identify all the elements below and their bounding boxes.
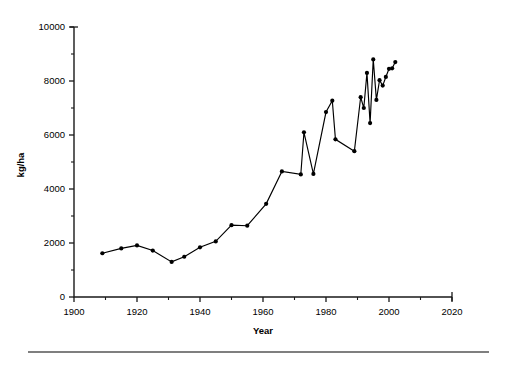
- data-point: [214, 239, 218, 243]
- y-tick-label: 4000: [44, 183, 65, 194]
- data-point: [352, 149, 356, 153]
- data-point: [264, 202, 268, 206]
- x-axis-title: Year: [253, 325, 273, 336]
- data-point: [381, 83, 385, 87]
- data-point: [390, 66, 394, 70]
- data-point: [393, 60, 397, 64]
- y-tick-label: 6000: [44, 129, 65, 140]
- data-point: [333, 137, 337, 141]
- x-tick-label: 2000: [378, 306, 399, 317]
- data-point: [384, 75, 388, 79]
- data-point: [182, 255, 186, 259]
- chart-figure: 0200040006000800010000 19001920194019601…: [0, 0, 513, 366]
- x-tick-label: 1980: [315, 306, 336, 317]
- data-point: [311, 172, 315, 176]
- y-tick-label: 2000: [44, 237, 65, 248]
- data-point: [135, 243, 139, 247]
- data-point: [119, 246, 123, 250]
- x-tick-label: 2020: [441, 306, 462, 317]
- data-point: [374, 98, 378, 102]
- data-point: [245, 224, 249, 228]
- y-tick-label: 8000: [44, 75, 65, 86]
- data-point: [371, 57, 375, 61]
- data-point: [198, 245, 202, 249]
- x-tick-label: 1920: [126, 306, 147, 317]
- y-axis-title: kg/ha: [15, 152, 26, 178]
- data-point: [170, 260, 174, 264]
- y-tick-label: 10000: [39, 21, 65, 32]
- data-point: [302, 130, 306, 134]
- data-point: [377, 78, 381, 82]
- data-point: [359, 95, 363, 99]
- yield-line-chart: 0200040006000800010000 19001920194019601…: [0, 0, 513, 366]
- data-point: [365, 71, 369, 75]
- data-point: [229, 223, 233, 227]
- data-point: [368, 121, 372, 125]
- x-tick-label: 1900: [63, 306, 84, 317]
- x-tick-label: 1940: [189, 306, 210, 317]
- data-point: [362, 106, 366, 110]
- data-point: [299, 172, 303, 176]
- x-tick-label: 1960: [252, 306, 273, 317]
- data-point: [280, 169, 284, 173]
- data-point: [324, 110, 328, 114]
- data-point: [100, 251, 104, 255]
- y-tick-label: 0: [60, 291, 65, 302]
- data-point: [151, 248, 155, 252]
- data-point: [330, 99, 334, 103]
